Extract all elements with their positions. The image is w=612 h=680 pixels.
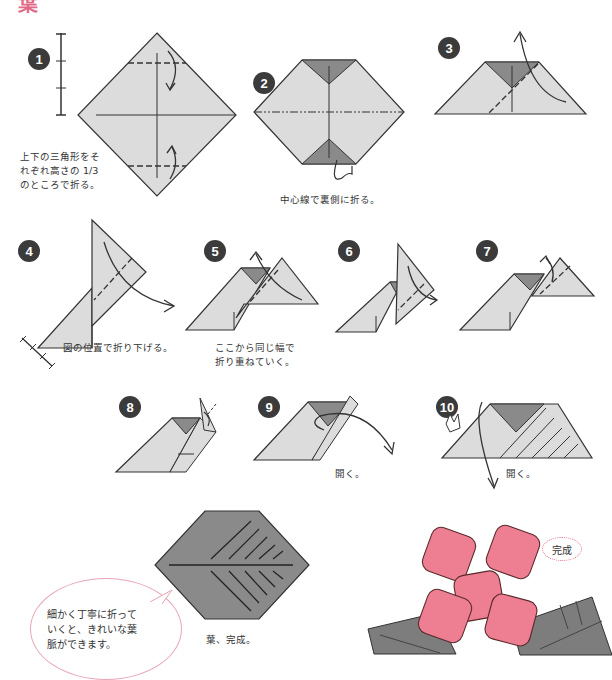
step3-diagram xyxy=(434,32,604,116)
step1-caption: 上下の三角形をそ れぞれ高さの 1/3 のところで折る。 xyxy=(20,150,100,192)
step4-diagram xyxy=(38,220,178,340)
step10-caption: 開く。 xyxy=(506,467,536,481)
step2-caption: 中心線で裏側に折る。 xyxy=(280,193,380,207)
step1-diagram xyxy=(78,33,238,197)
step5-caption: ここから同じ幅で 折り重ねていく。 xyxy=(215,341,295,369)
bubble-tail xyxy=(150,590,174,604)
step2-diagram xyxy=(252,60,406,170)
step4-caption: 図の位置で折り下げる。 xyxy=(63,341,173,355)
step9-caption: 開く。 xyxy=(335,467,365,481)
complete-label: 完成 xyxy=(542,537,582,561)
step-badge-1: 1 xyxy=(28,48,50,70)
step5-diagram xyxy=(186,248,322,334)
step-badge-4: 4 xyxy=(18,240,40,262)
finished-leaf-diagram xyxy=(155,511,311,619)
step7-diagram xyxy=(460,252,600,332)
step8-diagram xyxy=(116,396,226,476)
measure-scale-icon xyxy=(56,33,66,117)
step6-diagram xyxy=(336,244,446,334)
step9-diagram xyxy=(254,394,400,466)
page-title: 葉 xyxy=(18,0,38,17)
measure-scale-icon xyxy=(20,336,56,370)
leaf-complete-caption: 葉、完成。 xyxy=(206,633,256,647)
tip-text: 細かく丁寧に折って いくと、きれいな葉 脈ができます。 xyxy=(47,607,137,652)
